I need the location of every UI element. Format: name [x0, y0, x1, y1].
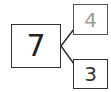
bottom-part-value: 3	[84, 64, 97, 84]
whole-number-value: 7	[26, 31, 45, 61]
top-part-value: 4	[84, 10, 97, 30]
whole-number-box: 7	[11, 24, 61, 68]
top-part-box: 4	[73, 4, 108, 35]
bottom-part-box: 3	[73, 59, 108, 89]
